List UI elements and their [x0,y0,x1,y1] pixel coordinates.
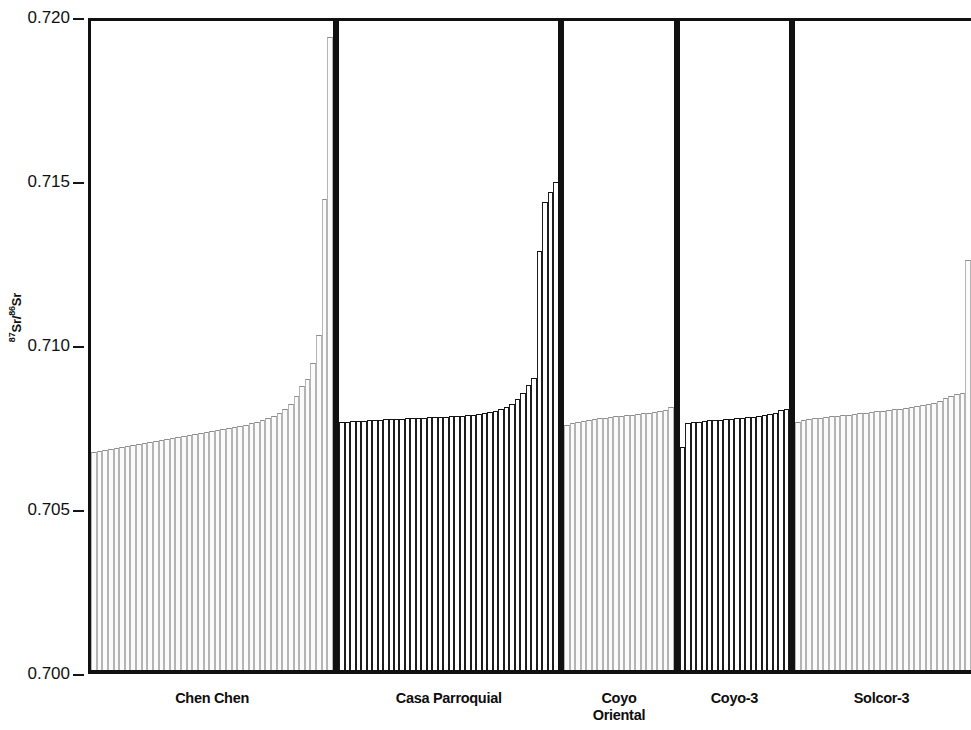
x-group-label-line: Casa Parroquial [336,690,561,707]
strontium-isotope-bar-chart: 87Sr/86Sr 0.7000.7050.7100.7150.720 Chen… [0,0,971,730]
panel-coyo-3 [677,18,792,674]
x-group-label-coyo-oriental: CoyoOriental [561,690,676,724]
x-group-label-solcor-3: Solcor-3 [792,690,971,707]
y-axis-tick-labels: 0.7000.7050.7100.7150.720 [0,0,70,730]
x-axis-group-labels: Chen ChenCasa ParroquialCoyoOrientalCoyo… [88,690,971,730]
y-axis-tick-label: 0.715 [4,172,70,192]
y-axis-tick-mark [73,346,84,348]
x-group-label-line: Oriental [561,707,676,724]
y-axis-tick-label: 0.720 [4,8,70,28]
bar-series [91,21,333,670]
bar [553,182,558,670]
bar-series [795,21,971,670]
bar-series [339,21,558,670]
y-axis-tick-label: 0.700 [4,664,70,684]
x-group-label-line: Chen Chen [88,690,336,707]
y-axis-tick-mark [73,510,84,512]
bar [965,260,971,670]
y-axis-tick-label: 0.710 [4,336,70,356]
y-axis-tick-mark [73,182,84,184]
y-axis-tick-label: 0.705 [4,500,70,520]
bar [784,409,789,670]
bar [668,407,673,670]
x-group-label-line: Coyo-3 [677,690,792,707]
panel-solcor-3 [792,18,971,674]
x-group-label-chen-chen: Chen Chen [88,690,336,707]
bar-series [680,21,789,670]
x-group-label-coyo-3: Coyo-3 [677,690,792,707]
y-axis-tick-mark [73,18,84,20]
panel-coyo-oriental [561,18,676,674]
x-group-label-line: Coyo [561,690,676,707]
panel-casa-parroquial [336,18,561,674]
x-group-label-line: Solcor-3 [792,690,971,707]
panel-chen-chen [88,18,336,674]
y-axis-tick-mark [73,674,84,676]
x-group-label-casa-parroquial: Casa Parroquial [336,690,561,707]
bar-series [564,21,673,670]
bar [327,37,333,670]
plot-area [88,18,971,674]
